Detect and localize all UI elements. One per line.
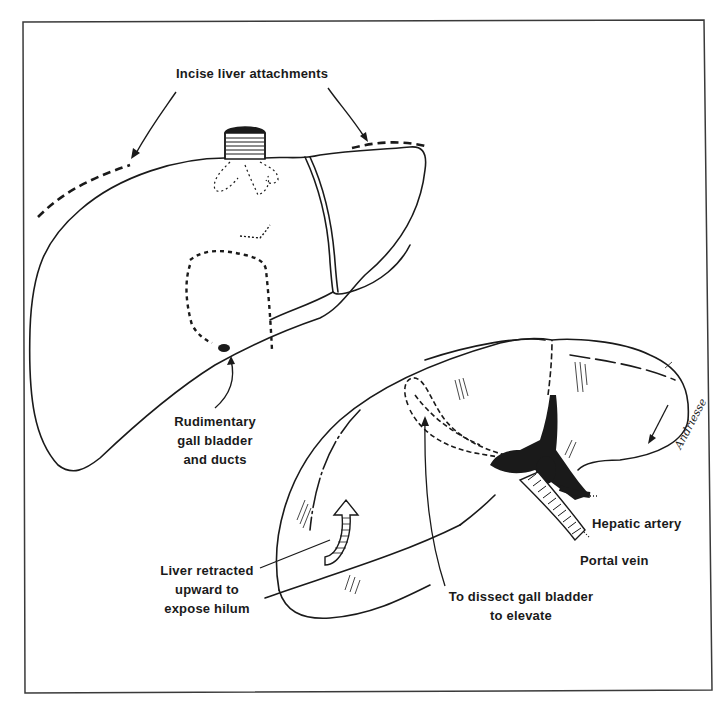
- hilum-vessels: [490, 340, 590, 540]
- vena-cava-stump: [225, 127, 265, 159]
- label-line: Liver retracted: [148, 561, 266, 580]
- label-line: upward to: [148, 580, 266, 599]
- rudimentary-arrow: [215, 360, 233, 408]
- label-line: expose hilum: [148, 599, 266, 618]
- signature-arrowhead: [648, 434, 656, 444]
- gall-bladder-dashed: [405, 378, 515, 458]
- label-line: To dissect gall bladder: [436, 587, 606, 606]
- label-line: to elevate: [436, 606, 606, 625]
- dissect-arrowhead: [421, 416, 429, 426]
- hepatic-veins-dotted: [214, 162, 278, 195]
- label-incise-liver-attachments: Incise liver attachments: [176, 64, 328, 83]
- retraction-arrow-icon: [325, 500, 358, 565]
- label-line: Rudimentary: [155, 412, 275, 431]
- label-line: and ducts: [155, 450, 275, 469]
- figure-frame: [23, 20, 712, 693]
- label-dissect-gall-bladder: To dissect gall bladder to elevate: [436, 587, 606, 625]
- lower-liver: [265, 339, 688, 619]
- rudimentary-ducts-dotted: [186, 225, 272, 350]
- rudimentary-gall-bladder: [218, 344, 230, 352]
- label-rudimentary-gall-bladder: Rudimentary gall bladder and ducts: [155, 412, 275, 469]
- label-liver-retracted: Liver retracted upward to expose hilum: [148, 561, 266, 618]
- label-hepatic-artery: Hepatic artery: [592, 514, 682, 533]
- label-line: gall bladder: [155, 431, 275, 450]
- liver-surgery-illustration: [0, 0, 717, 709]
- label-portal-vein: Portal vein: [580, 551, 649, 570]
